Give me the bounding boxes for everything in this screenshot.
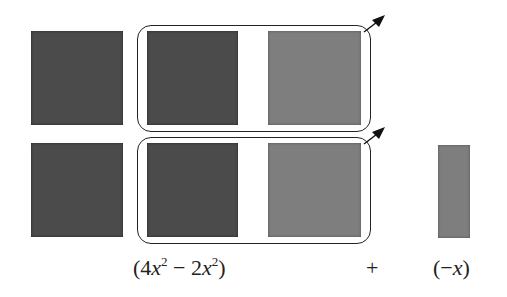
plus-operator: + [366,254,378,282]
expression-term-2: (−x) [433,254,470,282]
term1-close: ) [218,255,225,280]
term1-var1: x [151,255,161,280]
arrow-up-right-icon [364,15,385,32]
arrows-layer [0,0,507,297]
term2-close: ) [463,255,470,280]
expression-term-1: (4x2 − 2x2) [133,254,226,282]
term1-open: (4 [133,255,151,280]
arrow-up-right-icon [364,127,385,144]
term1-mid: − 2 [168,255,202,280]
term1-var2: x [202,255,212,280]
term2-open: (− [433,255,453,280]
term2-var: x [453,255,463,280]
